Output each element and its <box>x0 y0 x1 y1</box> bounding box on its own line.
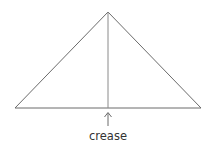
arrow-up-icon <box>105 113 112 127</box>
triangle-diagram: crease <box>0 0 214 150</box>
crease-label: crease <box>89 129 127 143</box>
